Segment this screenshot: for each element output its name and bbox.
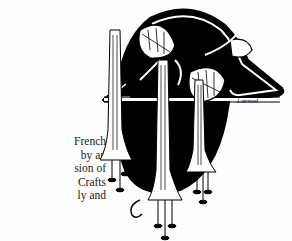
text-line: sion of — [0, 162, 106, 176]
text-line: French — [0, 135, 106, 149]
text-line: by an — [0, 149, 106, 163]
art-nouveau-illustration — [100, 0, 292, 241]
artist-signature: Lœnod — [237, 97, 258, 104]
text-line: Crafts — [0, 176, 106, 190]
text-line: ly and — [0, 189, 106, 203]
body-text: French by an sion of Crafts ly and — [0, 135, 106, 203]
book-page: French by an sion of Crafts ly and — [0, 0, 292, 241]
